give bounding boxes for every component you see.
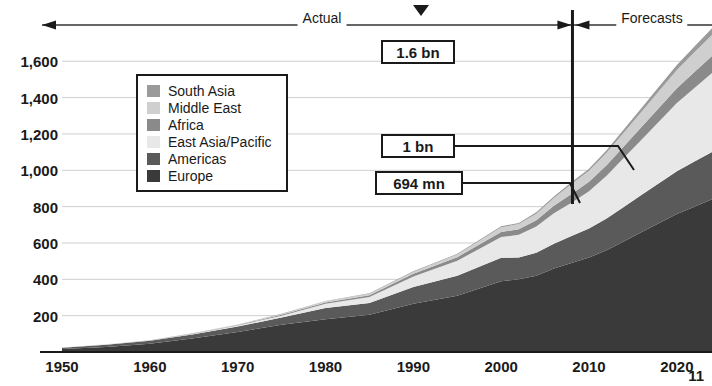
legend-swatch-icon bbox=[147, 119, 160, 131]
y-axis-tick-label: 600 bbox=[0, 234, 58, 251]
callout-1-6bn: 1.6 bn bbox=[381, 40, 455, 64]
y-axis-tick-label: 1,200 bbox=[0, 125, 58, 142]
legend-item-europe: Europe bbox=[147, 167, 279, 184]
legend-label: Europe bbox=[168, 168, 213, 184]
legend-item-east-asia-pacific: East Asia/Pacific bbox=[147, 133, 279, 150]
legend-item-africa: Africa bbox=[147, 116, 279, 133]
y-axis-tick-label: 1,600 bbox=[0, 53, 58, 70]
x-axis-tick-label: 1950 bbox=[45, 358, 78, 375]
chart-figure: 1,6001,4001,2001,000800600400200 1950196… bbox=[0, 0, 712, 386]
legend-swatch-icon bbox=[147, 85, 160, 97]
y-axis-tick-label: 200 bbox=[0, 307, 58, 324]
arrow-left-forecast-icon bbox=[575, 21, 589, 30]
stacked-area-chart bbox=[0, 0, 712, 386]
y-axis-tick-label: 1,400 bbox=[0, 89, 58, 106]
y-axis-tick-label: 400 bbox=[0, 271, 58, 288]
y-axis-tick-label: 1,000 bbox=[0, 162, 58, 179]
x-axis-tick-label: 1990 bbox=[397, 358, 430, 375]
callout-694mn: 694 mn bbox=[375, 171, 463, 195]
callout-1bn: 1 bn bbox=[381, 134, 455, 158]
legend-swatch-icon bbox=[147, 136, 160, 148]
legend-item-middle-east: Middle East bbox=[147, 99, 279, 116]
x-axis-tick-label: 2010 bbox=[572, 358, 605, 375]
arrow-right-icon bbox=[557, 21, 571, 30]
caret-down-icon bbox=[413, 5, 429, 16]
x-axis-tick-label: 1960 bbox=[133, 358, 166, 375]
x-axis-tick-label: 1980 bbox=[309, 358, 342, 375]
legend-label: Middle East bbox=[168, 100, 241, 116]
legend-label: Americas bbox=[168, 151, 226, 167]
legend-label: East Asia/Pacific bbox=[168, 134, 272, 150]
legend-item-south-asia: South Asia bbox=[147, 82, 279, 99]
x-axis-tick-label: 2000 bbox=[485, 358, 518, 375]
period-label-actual: Actual bbox=[298, 10, 347, 26]
x-axis-tick-label: 1970 bbox=[221, 358, 254, 375]
y-axis-tick-labels: 1,6001,4001,2001,000800600400200 bbox=[0, 0, 58, 386]
legend-swatch-icon bbox=[147, 102, 160, 114]
period-label-forecasts: Forecasts bbox=[616, 10, 687, 26]
legend-item-americas: Americas bbox=[147, 150, 279, 167]
y-axis-tick-label: 800 bbox=[0, 198, 58, 215]
legend-swatch-icon bbox=[147, 153, 160, 165]
legend-swatch-icon bbox=[147, 170, 160, 182]
legend-label: South Asia bbox=[168, 83, 235, 99]
legend-label: Africa bbox=[168, 117, 204, 133]
page-number: 11 bbox=[688, 367, 704, 384]
legend: South AsiaMiddle EastAfricaEast Asia/Pac… bbox=[136, 74, 288, 192]
